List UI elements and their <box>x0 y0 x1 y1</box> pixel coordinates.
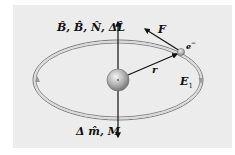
energy-subscript: 1 <box>188 82 192 90</box>
energy-label: E1 <box>180 76 193 90</box>
electron-charge: − <box>191 39 196 46</box>
electron <box>177 48 184 55</box>
top-axis-label: B̂, B̂̇, N̂, ΔL̂ <box>57 22 125 33</box>
bottom-axis-label: Δ m̂, M <box>76 126 120 137</box>
electron-label: e− <box>186 40 196 50</box>
force-label: F <box>158 24 166 35</box>
radius-label: r <box>152 65 157 75</box>
